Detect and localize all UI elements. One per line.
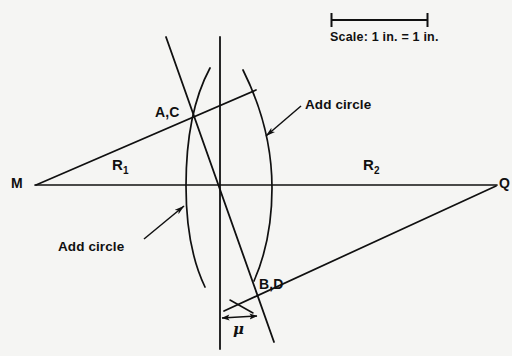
radius-r1-subscript: 1 [123,165,129,176]
point-label-bd: B,D [259,277,283,291]
construction-diagram [0,0,512,356]
radius-r2-letter: R [363,156,374,173]
radius-label-r2: R2 [363,157,380,176]
point-label-q: Q [499,176,510,190]
radius-label-r1: R1 [112,157,129,176]
radius-r1-letter: R [112,156,123,173]
add-circle-upper-leader [266,106,301,136]
add-circle-upper-label: Add circle [305,98,371,112]
angle-mu-dimension-arrow [222,316,257,318]
arc-right-add-circle [243,70,272,281]
add-circle-lower-leader [144,206,184,239]
diagram-page: M Q A,C B,D R1 R2 Add circle Add circle … [0,0,512,356]
scale-bar [331,13,428,27]
scale-caption: Scale: 1 in. = 1 in. [330,31,439,44]
add-circle-lower-label: Add circle [58,240,124,254]
angle-mu-label: μ [233,322,244,337]
radius-r2-subscript: 2 [374,165,380,176]
ray-r1-line [36,90,256,185]
point-label-m: M [11,176,23,190]
point-label-ac: A,C [155,105,179,119]
arc-left-add-circle [186,68,210,287]
